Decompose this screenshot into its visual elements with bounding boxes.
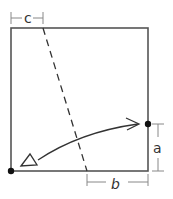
dashed-fold-line: [43, 28, 87, 171]
diagram-canvas: c a b: [0, 0, 173, 199]
open-triangle-arrowhead-icon: [21, 154, 37, 166]
curved-arrow-shaft: [38, 124, 138, 160]
label-b: b: [111, 176, 120, 192]
square-outline: [11, 28, 148, 171]
label-c: c: [24, 10, 32, 26]
point-dot-corner: [8, 168, 14, 174]
point-dot-right: [145, 121, 151, 127]
label-a: a: [153, 140, 162, 156]
